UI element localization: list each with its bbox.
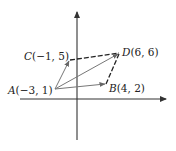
label-point-a: A(−3, 1) [7, 84, 53, 96]
label-point-d: D(6, 6) [121, 46, 159, 58]
label-point-c: C(−1, 5) [24, 50, 69, 62]
label-point-b: B(4, 2) [108, 82, 145, 94]
coordinate-diagram: C(−1, 5) D(6, 6) A(−3, 1) B(4, 2) [0, 0, 176, 151]
dashed-segment-bd [106, 54, 119, 84]
